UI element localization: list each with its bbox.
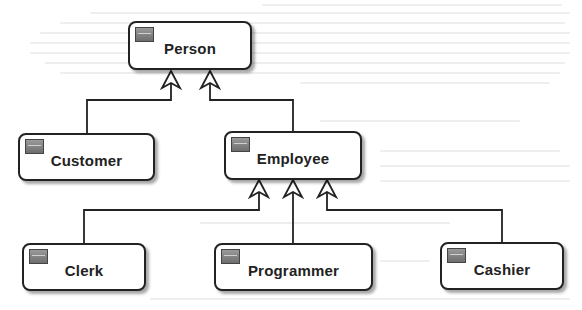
class-person[interactable]: Person [128, 21, 252, 70]
edge-cashier-employee [327, 181, 502, 242]
edge-customer-person [87, 72, 171, 133]
class-name: Cashier [442, 261, 562, 278]
class-clerk[interactable]: Clerk [22, 243, 146, 291]
class-name: Clerk [24, 262, 144, 279]
class-cashier[interactable]: Cashier [440, 242, 564, 290]
class-name: Customer [20, 152, 153, 169]
class-name: Programmer [216, 262, 371, 279]
class-employee[interactable]: Employee [224, 131, 362, 180]
class-name: Employee [226, 150, 360, 167]
class-name: Person [130, 40, 250, 57]
class-customer[interactable]: Customer [18, 133, 155, 181]
class-programmer[interactable]: Programmer [214, 243, 373, 291]
edge-clerk-employee [84, 181, 259, 243]
edge-employee-person [210, 72, 293, 131]
